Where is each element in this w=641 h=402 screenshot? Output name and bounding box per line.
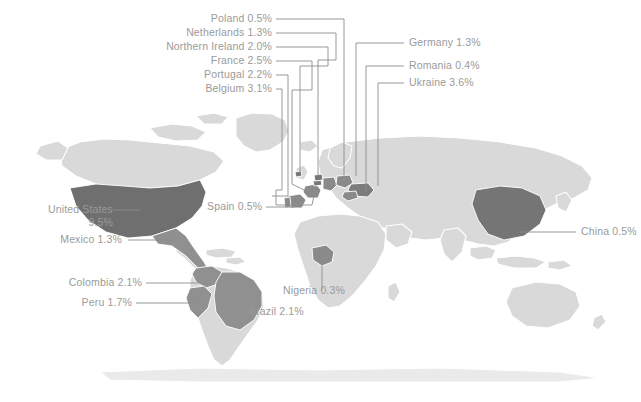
label-united-states-name: United States [18,203,113,216]
label-netherlands: Netherlands 1.3% [82,26,272,39]
label-belgium: Belgium 3.1% [82,82,272,95]
label-northern-ireland: Northern Ireland 2.0% [62,40,272,53]
label-mexico: Mexico 1.3% [18,233,122,246]
label-overlay: Poland 0.5% Netherlands 1.3% Northern Ir… [0,0,641,402]
label-romania: Romania 0.4% [409,59,480,72]
label-france: France 2.5% [82,54,272,67]
label-peru: Peru 1.7% [46,296,132,309]
label-nigeria: Nigeria 0.3% [283,284,345,297]
label-brazil: Brazil 2.1% [249,305,304,318]
label-china: China 0.5% [581,225,637,238]
label-poland: Poland 0.5% [82,12,272,25]
label-portugal: Portugal 2.2% [82,68,272,81]
label-germany: Germany 1.3% [409,36,481,49]
label-spain: Spain 0.5% [207,200,262,213]
label-united-states-value: 9.5% [18,216,113,229]
label-ukraine: Ukraine 3.6% [409,76,474,89]
label-united-states: United States 9.5% [18,203,113,229]
label-colombia: Colombia 2.1% [36,276,142,289]
world-map-figure: Poland 0.5% Netherlands 1.3% Northern Ir… [0,0,641,402]
